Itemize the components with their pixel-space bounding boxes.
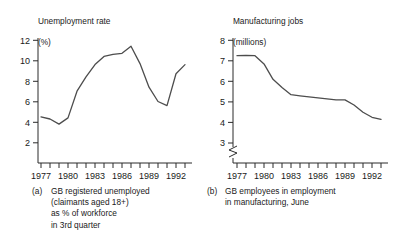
svg-text:1983: 1983: [281, 171, 301, 181]
svg-text:1980: 1980: [58, 171, 78, 181]
figure-container: Unemployment rate (%) 12 10 8 6: [0, 0, 411, 249]
svg-text:1983: 1983: [85, 171, 105, 181]
chart-b-caption-tag: (b): [207, 186, 217, 197]
chart-b-plot: 8 7 6 5 4 3: [203, 0, 411, 249]
chart-b-data-line: [237, 55, 381, 119]
chart-b-y-ticks: [228, 40, 233, 143]
svg-text:1989: 1989: [139, 171, 159, 181]
svg-text:8: 8: [220, 36, 225, 46]
svg-text:5: 5: [220, 97, 225, 107]
chart-a-y-ticks: [33, 40, 38, 143]
chart-b-x-tick-labels: 1977 1980 1983 1986 1989 1992: [227, 171, 382, 181]
svg-text:3: 3: [220, 138, 225, 148]
svg-text:8: 8: [25, 77, 30, 87]
chart-b-caption-line-1: GB employees in employment: [225, 186, 336, 196]
chart-b-y-tick-labels: 8 7 6 5 4 3: [220, 36, 225, 149]
chart-panel-a: Unemployment rate (%) 12 10 8 6: [0, 0, 205, 249]
svg-text:7: 7: [220, 56, 225, 66]
svg-text:1980: 1980: [254, 171, 274, 181]
chart-a-x-ticks: [41, 163, 185, 168]
svg-text:1977: 1977: [31, 171, 51, 181]
chart-a-caption-line-3: as % of workforce: [51, 208, 117, 218]
chart-a-caption-line-4: in 3rd quarter: [51, 220, 100, 230]
svg-text:2: 2: [25, 138, 30, 148]
svg-text:1989: 1989: [335, 171, 355, 181]
chart-b-caption-line-2: in manufacturing, June: [225, 197, 309, 207]
chart-a-x-tick-labels: 1977 1980 1983 1986 1989 1992: [31, 171, 186, 181]
chart-b-x-ticks: [237, 163, 381, 168]
svg-text:6: 6: [220, 77, 225, 87]
chart-panel-b: Manufacturing jobs (millions) 8: [203, 0, 411, 249]
chart-a-caption-line-2: (claimants aged 18+): [51, 197, 129, 207]
svg-text:4: 4: [220, 118, 225, 128]
svg-text:1992: 1992: [166, 171, 186, 181]
svg-text:1986: 1986: [112, 171, 132, 181]
svg-text:1986: 1986: [308, 171, 328, 181]
svg-text:6: 6: [25, 97, 30, 107]
svg-text:1977: 1977: [227, 171, 247, 181]
svg-text:10: 10: [20, 56, 30, 66]
chart-a-caption: GB registered unemployed(claimants aged …: [51, 186, 150, 231]
svg-text:4: 4: [25, 118, 30, 128]
svg-text:1992: 1992: [362, 171, 382, 181]
chart-a-data-line: [41, 46, 185, 124]
chart-a-y-tick-labels: 12 10 8 6 4 2: [20, 36, 30, 149]
chart-a-caption-tag: (a): [32, 186, 42, 197]
chart-a-caption-line-1: GB registered unemployed: [51, 186, 150, 196]
chart-b-caption: GB employees in employmentin manufacturi…: [225, 186, 336, 208]
chart-b-axis-break-icon: [229, 146, 237, 157]
svg-text:12: 12: [20, 36, 30, 46]
